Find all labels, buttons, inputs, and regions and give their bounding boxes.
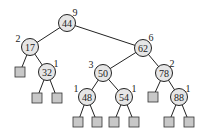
- external-leaf-node: [184, 117, 194, 127]
- node-key: 78: [159, 68, 169, 79]
- node-height-label: 6: [149, 32, 154, 43]
- tree-canvas: 449172626321503782481541881: [0, 0, 207, 134]
- node-height-label: 1: [186, 83, 191, 94]
- external-leaf-node: [15, 67, 25, 77]
- external-leaf-node: [129, 117, 139, 127]
- node-key: 32: [42, 67, 52, 78]
- node-height-label: 9: [73, 7, 78, 18]
- node-height-label: 1: [54, 58, 59, 69]
- node-key: 50: [98, 68, 108, 79]
- external-leaf-node: [52, 93, 62, 103]
- tree-node-54: 54: [116, 89, 133, 106]
- external-leaf-node: [164, 117, 174, 127]
- node-key: 48: [82, 92, 92, 103]
- node-height-label: 2: [16, 33, 21, 44]
- node-key: 88: [174, 92, 184, 103]
- external-leaf-node: [73, 117, 83, 127]
- node-key: 62: [138, 43, 148, 54]
- node-key: 54: [119, 92, 129, 103]
- external-leaf-node: [148, 92, 158, 102]
- tree-node-17: 17: [22, 39, 39, 56]
- external-leaf-node: [109, 117, 119, 127]
- node-key: 44: [62, 18, 72, 29]
- node-height-label: 2: [170, 58, 175, 69]
- node-height-label: 1: [132, 83, 137, 94]
- tree-edge: [67, 23, 143, 48]
- external-leaf-node: [92, 117, 102, 127]
- external-leaf-node: [32, 93, 42, 103]
- node-key: 17: [25, 42, 35, 53]
- tree-node-50: 50: [95, 65, 112, 82]
- node-height-label: 1: [74, 83, 79, 94]
- avl-tree-diagram: 449172626321503782481541881: [0, 0, 207, 134]
- node-height-label: 3: [89, 59, 94, 70]
- tree-node-48: 48: [79, 89, 96, 106]
